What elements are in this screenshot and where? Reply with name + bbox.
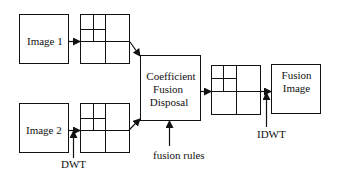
coefficient-line2: Fusion (135, 83, 201, 96)
arrow-grid1-to-coefficient (130, 42, 140, 56)
dwt-label: DWT (61, 158, 86, 171)
fusion-rules-label: fusion rules (153, 149, 205, 162)
image1-label: Image 1 (27, 35, 63, 48)
coefficient-line1: Coefficient (141, 70, 201, 83)
fused-grid (212, 66, 261, 115)
arrow-grid2-to-coefficient (129, 119, 140, 130)
dwt-grid-2 (81, 104, 130, 153)
image2-label: Image 2 (26, 124, 62, 137)
coefficient-label: Coefficient Fusion Disposal (141, 70, 201, 109)
fusion-image-line2: Image (272, 82, 321, 95)
dwt-grid-1 (81, 15, 130, 64)
fusion-image-line1: Fusion (272, 69, 321, 82)
coefficient-line3: Disposal (137, 96, 201, 109)
idwt-label: IDWT (257, 128, 286, 141)
fusion-image-label: Fusion Image (272, 69, 321, 95)
